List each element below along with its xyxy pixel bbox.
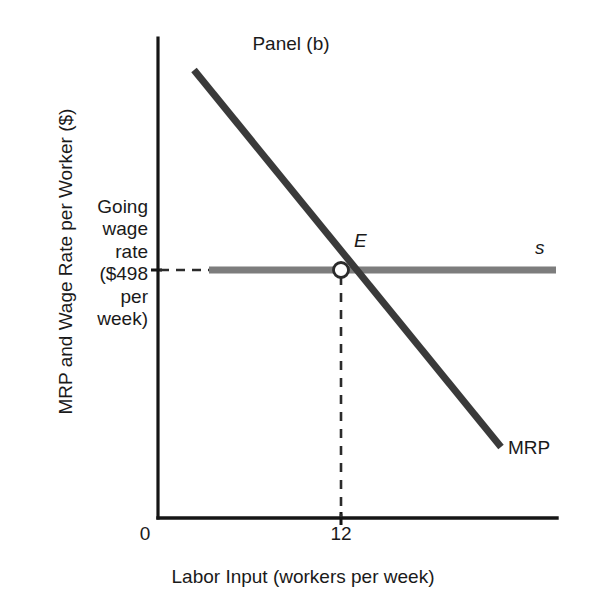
chart-figure: Panel (b) MRP and Wage Rate per Worker (… — [0, 0, 590, 609]
x-axis-title: Labor Input (workers per week) — [0, 567, 590, 586]
going-wage-rate-annotation: Going wage rate ($498 per week) — [56, 196, 148, 330]
supply-curve-label: s — [535, 238, 545, 257]
x-tick-label-12: 12 — [318, 524, 364, 543]
x-tick-label-0: 0 — [128, 524, 162, 543]
x-axis-title-text: Labor Input (workers per week) — [172, 567, 435, 586]
equilibrium-point-label: E — [354, 231, 367, 250]
mrp-curve-line — [194, 70, 501, 447]
equilibrium-point-marker — [334, 263, 349, 278]
mrp-curve-label: MRP — [508, 438, 550, 457]
panel-title: Panel (b) — [0, 34, 590, 53]
panel-title-text: Panel (b) — [252, 34, 329, 53]
